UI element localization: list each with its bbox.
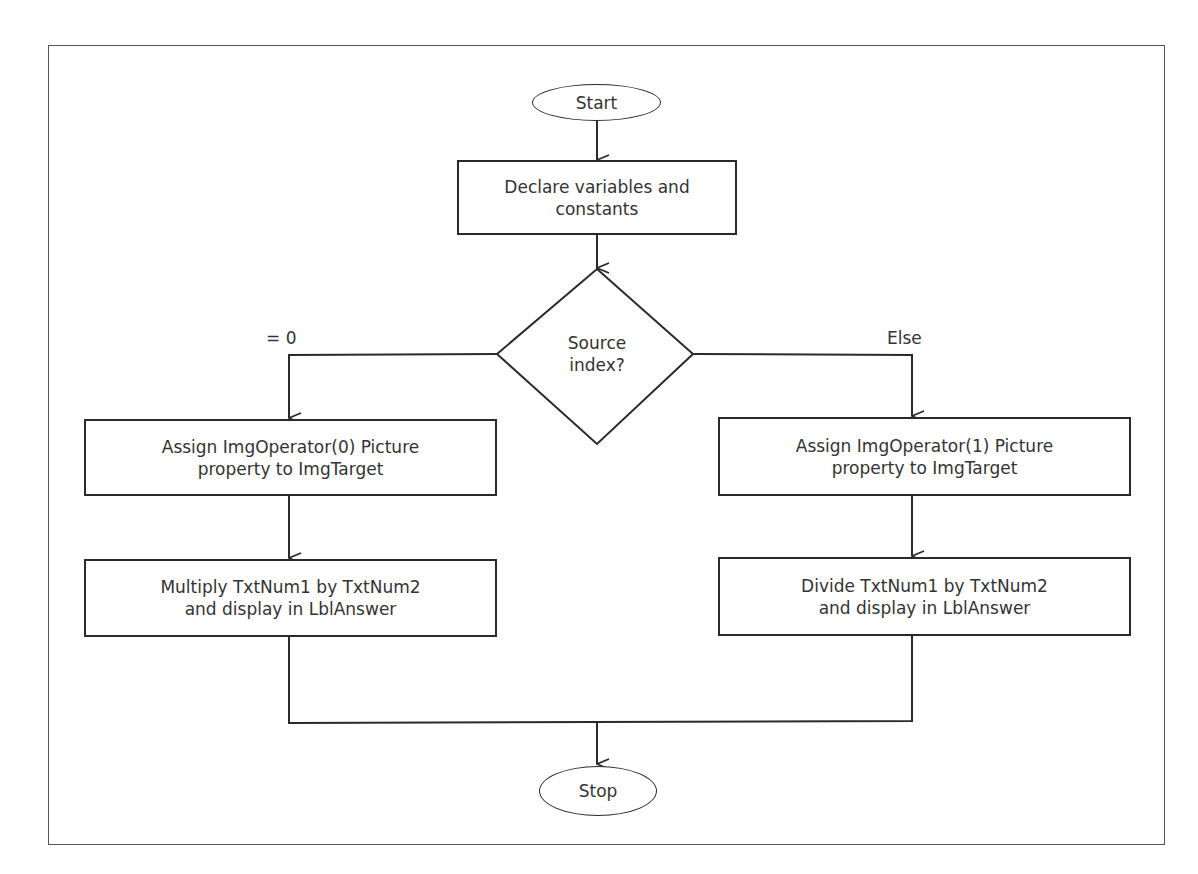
- multiply-node: Multiply TxtNum1 by TxtNum2 and display …: [84, 559, 497, 637]
- stop-node: Stop: [539, 766, 657, 816]
- declare-variables-node: Declare variables and constants: [457, 160, 737, 235]
- divide-node: Divide TxtNum1 by TxtNum2 and display in…: [718, 557, 1131, 636]
- decision-node-label: Source index?: [527, 316, 667, 392]
- branch-label-else: Else: [887, 328, 922, 348]
- assign-right-node: Assign ImgOperator(1) Picture property t…: [718, 417, 1131, 496]
- branch-label-zero: = 0: [266, 328, 296, 348]
- start-node: Start: [532, 84, 661, 121]
- assign-left-node: Assign ImgOperator(0) Picture property t…: [84, 419, 497, 496]
